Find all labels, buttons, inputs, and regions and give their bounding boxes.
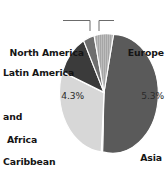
pie-label-africa-name: Africa	[7, 135, 67, 145]
pie-label-oceania: Oceania 0.5%	[6, 148, 96, 170]
leader-line-europe	[99, 21, 114, 32]
pie-label-latin-america-line1: Latin America	[3, 68, 77, 78]
pie-label-asia: Asia 50.5%	[108, 118, 162, 170]
pie-label-europe-name: Europe	[116, 48, 164, 58]
pie-label-asia-name: Asia	[108, 153, 162, 163]
pie-chart: North America 4.3% Europe 5.3% Latin Ame…	[0, 0, 166, 170]
pie-label-europe-percent: 5.3%	[116, 92, 164, 102]
